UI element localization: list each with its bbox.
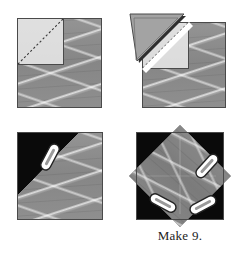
corner-square <box>142 22 189 69</box>
panel-3-border <box>17 132 103 220</box>
panel-step-4 <box>136 132 224 220</box>
panel-4-border <box>136 132 224 220</box>
corner-square <box>17 18 64 65</box>
panel-step-1 <box>17 18 102 108</box>
instruction-figure: Make 9. <box>0 0 238 253</box>
panel-step-2 <box>129 12 224 108</box>
caption-make-count: Make 9. <box>136 228 224 244</box>
panel-step-3 <box>17 132 103 220</box>
